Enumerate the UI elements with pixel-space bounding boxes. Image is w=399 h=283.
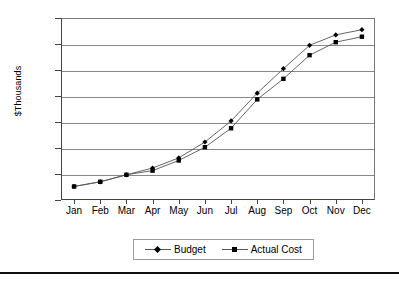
data-point bbox=[281, 77, 285, 81]
data-point bbox=[203, 145, 207, 149]
data-point bbox=[360, 35, 364, 39]
x-axis-tick-mark bbox=[310, 200, 311, 204]
y-axis-tick-mark bbox=[55, 18, 61, 19]
data-point bbox=[177, 158, 181, 162]
y-axis-tick-mark bbox=[55, 70, 61, 71]
series-line-actual-cost bbox=[74, 37, 362, 187]
legend-item-budget[interactable]: Budget bbox=[145, 244, 206, 255]
y-axis-tick-mark bbox=[55, 44, 61, 45]
legend-label-actual-cost: Actual Cost bbox=[251, 244, 302, 255]
line-chart-figure: $Thousands 0100200300400500600700JanFebM… bbox=[0, 0, 399, 268]
y-axis-tick-mark bbox=[55, 148, 61, 149]
x-axis-tick-mark bbox=[74, 200, 75, 204]
data-point bbox=[334, 40, 338, 44]
data-point bbox=[124, 173, 128, 177]
x-axis-tick-mark bbox=[153, 200, 154, 204]
x-axis-tick-mark bbox=[100, 200, 101, 204]
bottom-divider bbox=[0, 272, 399, 274]
x-axis-tick-mark bbox=[257, 200, 258, 204]
y-axis-title: $Thousands bbox=[13, 51, 23, 131]
square-marker-icon bbox=[222, 245, 248, 255]
data-point bbox=[359, 27, 364, 32]
data-point bbox=[229, 126, 233, 130]
legend-label-budget: Budget bbox=[174, 244, 206, 255]
chart-page: $Thousands 0100200300400500600700JanFebM… bbox=[0, 0, 399, 283]
x-axis-tick-mark bbox=[179, 200, 180, 204]
x-axis-tick-mark bbox=[283, 200, 284, 204]
x-axis-tick-mark bbox=[231, 200, 232, 204]
series-layer bbox=[61, 18, 375, 200]
diamond-marker-icon bbox=[145, 245, 171, 255]
x-axis-tick-mark bbox=[362, 200, 363, 204]
x-axis-tick-mark bbox=[126, 200, 127, 204]
x-axis-tick-label: Dec bbox=[345, 205, 379, 216]
series-line-budget bbox=[74, 30, 362, 187]
data-point bbox=[333, 32, 338, 37]
data-point bbox=[255, 97, 259, 101]
data-point bbox=[98, 180, 102, 184]
data-point bbox=[150, 168, 154, 172]
y-axis-tick-mark bbox=[55, 96, 61, 97]
y-axis-tick-mark bbox=[55, 122, 61, 123]
x-axis-tick-mark bbox=[205, 200, 206, 204]
legend-item-actual-cost[interactable]: Actual Cost bbox=[222, 244, 302, 255]
x-axis-tick-mark bbox=[336, 200, 337, 204]
y-axis-tick-mark bbox=[55, 200, 61, 201]
data-point bbox=[307, 53, 311, 57]
chart-legend: Budget Actual Cost bbox=[133, 239, 314, 260]
data-point bbox=[72, 184, 76, 188]
y-axis-tick-mark bbox=[55, 174, 61, 175]
